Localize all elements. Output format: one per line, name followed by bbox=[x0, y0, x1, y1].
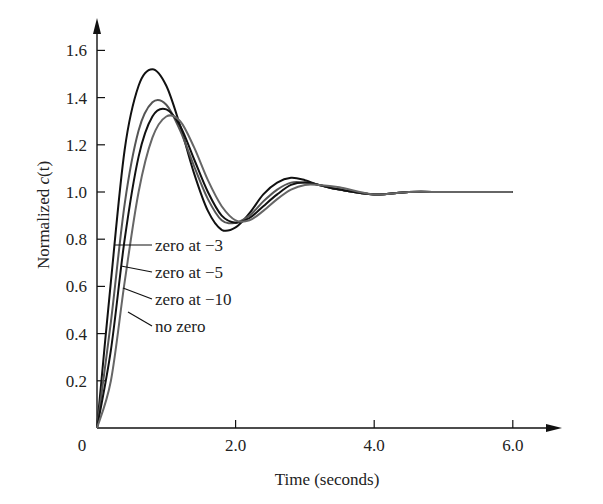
legend-leader-line bbox=[123, 288, 152, 299]
x-tick-label: 4.0 bbox=[364, 436, 385, 455]
legend-leader-line bbox=[128, 312, 152, 326]
x-tick-label: 6.0 bbox=[502, 436, 523, 455]
y-tick-label: 0.8 bbox=[66, 230, 87, 249]
y-tick-label: 1.4 bbox=[66, 89, 88, 108]
y-axis-title-suffix: (t) bbox=[34, 161, 53, 177]
y-axis-arrow-icon bbox=[93, 18, 101, 34]
x-axis-arrow-icon bbox=[546, 424, 562, 432]
y-axis-title-prefix: Normalized bbox=[34, 185, 53, 270]
x-tick-label: 2.0 bbox=[225, 436, 246, 455]
y-tick-label: 1.0 bbox=[66, 183, 87, 202]
legend-label: no zero bbox=[155, 317, 206, 336]
x-axis-title: Time (seconds) bbox=[275, 470, 380, 489]
y-tick-label: 1.2 bbox=[66, 136, 87, 155]
legend-label: zero at −5 bbox=[155, 263, 223, 282]
y-tick-label: 0.2 bbox=[66, 372, 87, 391]
legend-label: zero at −10 bbox=[155, 290, 232, 309]
y-tick-label: 1.6 bbox=[66, 41, 87, 60]
y-tick-label: 0.4 bbox=[66, 325, 88, 344]
x-tick-label: 0 bbox=[78, 436, 87, 455]
step-response-chart: 0.20.40.60.81.01.21.41.602.04.06.0 zero … bbox=[0, 0, 603, 504]
legend-callouts: zero at −3zero at −5zero at −10no zero bbox=[115, 236, 232, 336]
y-tick-label: 0.6 bbox=[66, 277, 87, 296]
y-axis-title: Normalized c(t) bbox=[34, 161, 53, 269]
legend-label: zero at −3 bbox=[155, 236, 223, 255]
